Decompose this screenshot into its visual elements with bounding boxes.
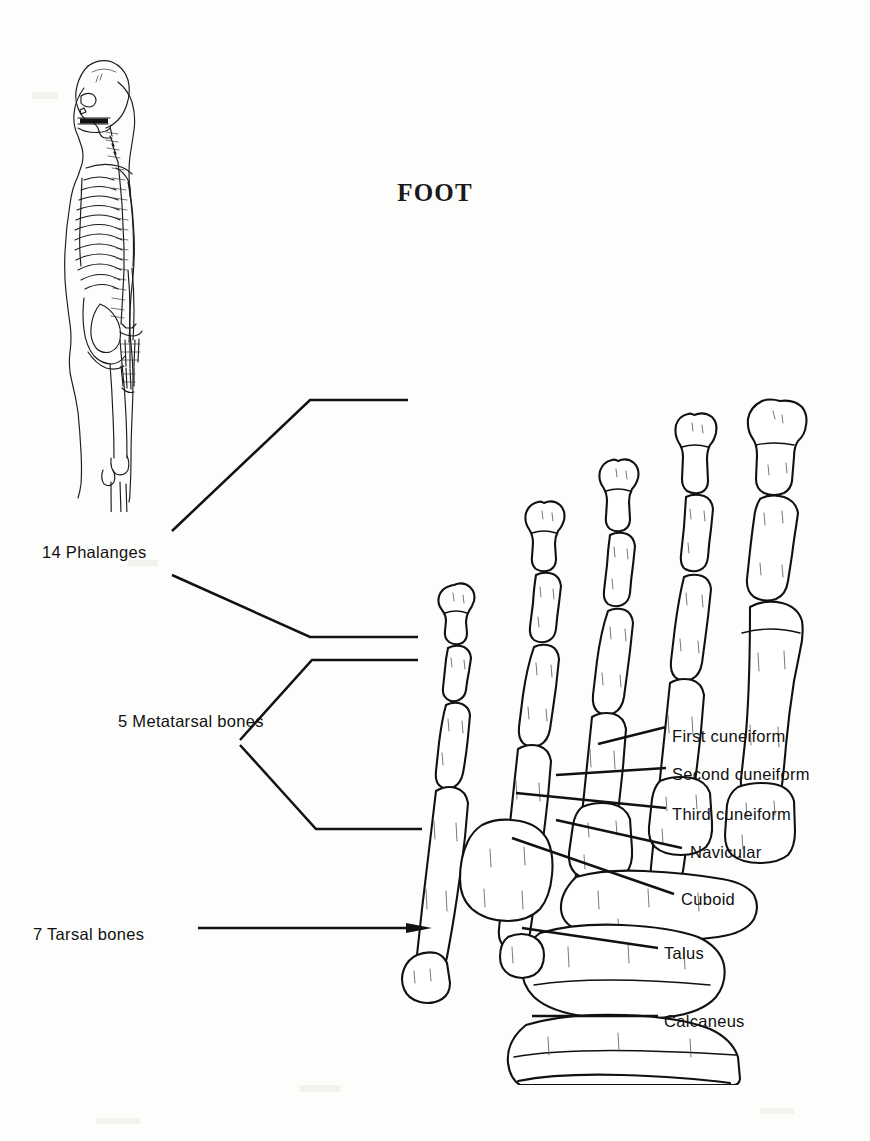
label-first-cuneiform: First cuneiform [672, 727, 786, 746]
diagram-page: FOOT [0, 0, 870, 1141]
label-phalanges: 14 Phalanges [42, 543, 147, 562]
bone-cuboid [460, 820, 553, 921]
bone-third-cuneiform [569, 803, 632, 881]
label-calcaneus: Calcaneus [664, 1012, 745, 1031]
label-cuboid: Cuboid [681, 890, 735, 909]
label-second-cuneiform: Second cuneiform [672, 765, 810, 784]
label-navicular: Navicular [690, 843, 761, 862]
label-talus: Talus [664, 944, 704, 963]
label-tarsals: 7 Tarsal bones [33, 925, 144, 944]
lateral-skeleton-figure [48, 52, 178, 512]
label-third-cuneiform: Third cuneiform [672, 805, 791, 824]
label-metatarsals: 5 Metatarsal bones [118, 712, 264, 731]
bone-talus [522, 925, 725, 1020]
